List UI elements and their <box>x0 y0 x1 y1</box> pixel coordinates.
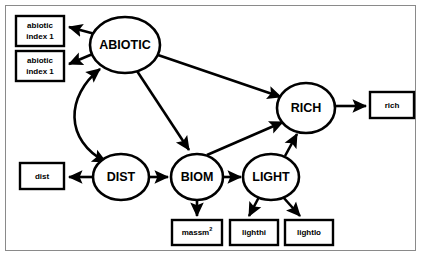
edge-abiotic-to-rich <box>158 55 281 97</box>
edge-abiotic-dist-curve <box>74 69 106 162</box>
observed-node-rich-indicator[interactable]: rich <box>370 92 414 118</box>
latent-node-biom[interactable]: BIOM <box>171 154 223 200</box>
latent-node-abiotic[interactable]: ABIOTIC <box>90 17 160 73</box>
observed-label-lighthi-indicator: lighthi <box>242 228 266 237</box>
observed-node-abiotic-index-1-b[interactable]: abiotic index 1 <box>16 51 64 81</box>
latent-label-dist: DIST <box>107 170 136 184</box>
latent-node-light[interactable]: LIGHT <box>243 154 299 200</box>
observed-node-dist-indicator[interactable]: dist <box>20 163 64 189</box>
observed-node-massm2-indicator[interactable]: massm2 <box>172 220 222 245</box>
observed-label-abiotic-index-1-a-line2: index 1 <box>26 32 54 41</box>
observed-label-rich-indicator: rich <box>385 101 400 110</box>
observed-node-lightlo-indicator[interactable]: lightlo <box>285 220 333 245</box>
sem-path-diagram: abiotic index 1 abiotic index 1 rich dis… <box>0 0 423 258</box>
edge-light-to-rich <box>285 134 297 156</box>
observed-label-abiotic-index-1-b-line2: index 1 <box>26 67 54 76</box>
edge-light-to-lightlo <box>283 197 300 216</box>
edge-abiotic-to-index-a <box>69 27 95 34</box>
observed-label-massm2-indicator: massm2 <box>182 226 213 237</box>
observed-label-lightlo-indicator: lightlo <box>297 228 321 237</box>
observed-label-abiotic-index-1-a-line1: abiotic <box>27 21 53 30</box>
observed-node-lighthi-indicator[interactable]: lighthi <box>230 220 278 245</box>
edge-light-to-lighthi <box>249 197 259 216</box>
latent-label-biom: BIOM <box>181 170 214 184</box>
latent-node-layer: ABIOTIC RICH DIST BIOM LIGHT <box>90 17 335 200</box>
latent-label-light: LIGHT <box>252 170 290 184</box>
edge-biom-to-rich <box>207 122 283 155</box>
observed-label-abiotic-index-1-b-line1: abiotic <box>27 56 53 65</box>
observed-label-massm2-superscript: 2 <box>209 226 212 232</box>
latent-node-rich[interactable]: RICH <box>277 83 335 133</box>
observed-label-dist-indicator: dist <box>35 172 50 181</box>
latent-label-rich: RICH <box>291 101 322 115</box>
latent-label-abiotic: ABIOTIC <box>99 38 150 52</box>
observed-label-massm2-base: massm <box>182 228 210 237</box>
observed-node-abiotic-index-1-a[interactable]: abiotic index 1 <box>16 16 64 46</box>
diagram-canvas: abiotic index 1 abiotic index 1 rich dis… <box>0 0 423 258</box>
edge-abiotic-to-biom <box>137 71 189 150</box>
latent-node-dist[interactable]: DIST <box>93 154 149 200</box>
